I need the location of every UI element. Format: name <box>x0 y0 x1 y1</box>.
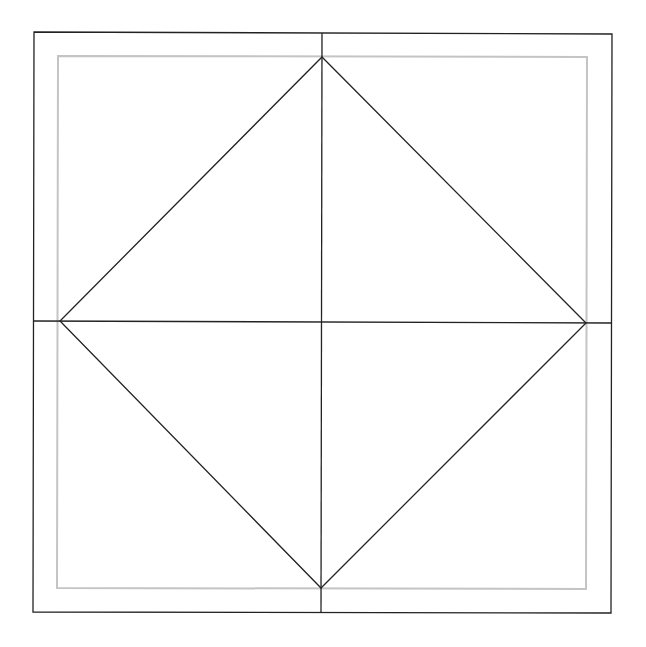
background <box>0 0 646 647</box>
geometric-diagram <box>0 0 646 647</box>
